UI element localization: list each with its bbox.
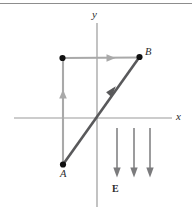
x-axis-label: x (176, 111, 181, 122)
electric-field-arrows-group (113, 128, 153, 178)
physics-figure-canvas: y x A B E (0, 0, 192, 211)
vertical-leg-arrowhead-icon (59, 90, 67, 99)
y-axis-label: y (92, 9, 97, 20)
figure-vector-layer (0, 0, 192, 211)
electric-field-label: E (112, 184, 119, 194)
horizontal-leg-line (62, 58, 140, 59)
field-arrow-1 (113, 128, 120, 178)
point-b-label: B (145, 47, 151, 58)
rectilinear-path-group (59, 54, 139, 164)
point-corner-dot (59, 55, 65, 61)
point-a-dot (60, 161, 66, 167)
field-arrow-2 (130, 128, 137, 178)
point-a-label: A (60, 169, 66, 180)
field-arrow-3 (146, 128, 153, 178)
point-b-dot (136, 54, 142, 60)
horizontal-leg-arrowhead-icon (107, 54, 116, 62)
diagonal-path-group (63, 57, 140, 165)
diagonal-path-line (63, 57, 140, 165)
